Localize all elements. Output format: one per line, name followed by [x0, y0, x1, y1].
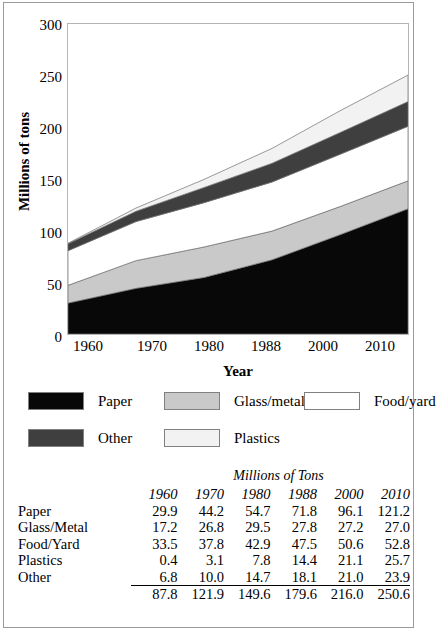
plot-area — [67, 23, 409, 335]
cell-food-yard-1960: 33.5 — [131, 536, 177, 553]
legend-item-glass-metal: Glass/metal — [164, 392, 305, 410]
cell-total-1980: 149.6 — [224, 586, 270, 603]
x-tick-2000: 2000 — [293, 339, 353, 354]
swatch-plastics-icon — [164, 429, 220, 447]
y-tick-150: 150 — [10, 174, 62, 189]
row-label-plastics: Plastics — [18, 552, 131, 569]
table-caption: Millions of Tons — [144, 468, 413, 484]
x-axis-title: Year — [67, 363, 409, 380]
cell-paper-1980: 54.7 — [224, 503, 270, 520]
y-tick-0: 0 — [10, 330, 62, 345]
cell-food-yard-1980: 42.9 — [224, 536, 270, 553]
cell-glass-metal-2010: 27.0 — [363, 519, 410, 536]
legend-label-food-yard: Food/yard — [374, 393, 436, 410]
cell-other-1970: 10.0 — [178, 569, 224, 586]
col-header-2010: 2010 — [363, 486, 410, 503]
cell-food-yard-1970: 37.8 — [178, 536, 224, 553]
cell-glass-metal-2000: 27.2 — [317, 519, 363, 536]
cell-paper-2000: 96.1 — [317, 503, 363, 520]
table-corner-cell — [18, 486, 131, 503]
cell-total-1960: 87.8 — [131, 586, 177, 603]
cell-food-yard-1988: 47.5 — [271, 536, 317, 553]
cell-food-yard-2010: 52.8 — [363, 536, 410, 553]
cell-other-1980: 14.7 — [224, 569, 270, 586]
cell-plastics-1970: 3.1 — [178, 552, 224, 569]
cell-paper-1970: 44.2 — [178, 503, 224, 520]
cell-total-1988: 179.6 — [271, 586, 317, 603]
legend-item-other: Other — [28, 429, 132, 447]
swatch-other-icon — [28, 429, 84, 447]
legend-item-paper: Paper — [28, 392, 132, 410]
cell-plastics-2000: 21.1 — [317, 552, 363, 569]
swatch-paper-icon — [28, 392, 84, 410]
x-tick-2010: 2010 — [350, 339, 410, 354]
area-series-svg — [68, 24, 408, 334]
col-header-1960: 1960 — [131, 486, 177, 503]
x-tick-1988: 1988 — [236, 339, 296, 354]
stacked-area-chart: Millions of tons 300 250 200 150 100 50 … — [4, 3, 413, 383]
col-header-1980: 1980 — [224, 486, 270, 503]
row-label-food-yard: Food/Yard — [18, 536, 131, 553]
cell-glass-metal-1980: 29.5 — [224, 519, 270, 536]
cell-total-1970: 121.9 — [178, 586, 224, 603]
y-tick-100: 100 — [10, 226, 62, 241]
x-tick-1970: 1970 — [122, 339, 182, 354]
x-tick-1960: 1960 — [58, 339, 118, 354]
table-row: Glass/Metal 17.2 26.8 29.5 27.8 27.2 27.… — [18, 519, 410, 536]
cell-plastics-1960: 0.4 — [131, 552, 177, 569]
cell-paper-1960: 29.9 — [131, 503, 177, 520]
x-tick-1980: 1980 — [179, 339, 239, 354]
row-label-paper: Paper — [18, 503, 131, 520]
table-total-row: 87.8 121.9 149.6 179.6 216.0 250.6 — [18, 586, 410, 603]
chart-legend: Paper Glass/metal Food/yard Other Plasti… — [4, 388, 413, 460]
y-axis-ticks: 300 250 200 150 100 50 0 — [4, 3, 62, 355]
cell-total-2000: 216.0 — [317, 586, 363, 603]
legend-label-other: Other — [98, 430, 132, 447]
col-header-2000: 2000 — [317, 486, 363, 503]
y-tick-50: 50 — [10, 278, 62, 293]
cell-glass-metal-1960: 17.2 — [131, 519, 177, 536]
cell-plastics-2010: 25.7 — [363, 552, 410, 569]
table-header-row: 1960 1970 1980 1988 2000 2010 — [18, 486, 410, 503]
cell-paper-1988: 71.8 — [271, 503, 317, 520]
cell-plastics-1988: 14.4 — [271, 552, 317, 569]
legend-label-paper: Paper — [98, 393, 132, 410]
col-header-1988: 1988 — [271, 486, 317, 503]
table-row: Food/Yard 33.5 37.8 42.9 47.5 50.6 52.8 — [18, 536, 410, 553]
data-table: 1960 1970 1980 1988 2000 2010 Paper 29.9… — [18, 486, 410, 603]
table-row: Paper 29.9 44.2 54.7 71.8 96.1 121.2 — [18, 503, 410, 520]
cell-plastics-1980: 7.8 — [224, 552, 270, 569]
swatch-glass-metal-icon — [164, 392, 220, 410]
table-row: Other 6.8 10.0 14.7 18.1 21.0 23.9 — [18, 569, 410, 586]
cell-glass-metal-1970: 26.8 — [178, 519, 224, 536]
row-label-total — [18, 586, 131, 603]
figure-page: Millions of tons 300 250 200 150 100 50 … — [3, 2, 414, 628]
table-row: Plastics 0.4 3.1 7.8 14.4 21.1 25.7 — [18, 552, 410, 569]
cell-other-1960: 6.8 — [131, 569, 177, 586]
cell-other-2000: 21.0 — [317, 569, 363, 586]
y-tick-300: 300 — [10, 18, 62, 33]
cell-glass-metal-1988: 27.8 — [271, 519, 317, 536]
y-tick-200: 200 — [10, 122, 62, 137]
cell-other-2010: 23.9 — [363, 569, 410, 586]
legend-item-food-yard: Food/yard — [304, 392, 436, 410]
cell-total-2010: 250.6 — [363, 586, 410, 603]
y-tick-250: 250 — [10, 70, 62, 85]
legend-label-glass-metal: Glass/metal — [234, 393, 305, 410]
row-label-glass-metal: Glass/Metal — [18, 519, 131, 536]
row-label-other: Other — [18, 569, 131, 586]
cell-food-yard-2000: 50.6 — [317, 536, 363, 553]
swatch-food-yard-icon — [304, 392, 360, 410]
cell-other-1988: 18.1 — [271, 569, 317, 586]
cell-paper-2010: 121.2 — [363, 503, 410, 520]
legend-item-plastics: Plastics — [164, 429, 280, 447]
legend-label-plastics: Plastics — [234, 430, 280, 447]
col-header-1970: 1970 — [178, 486, 224, 503]
